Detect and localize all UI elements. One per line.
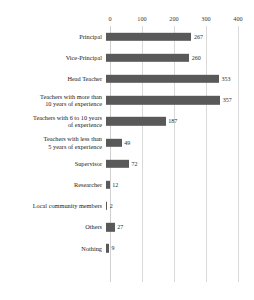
bar[interactable] [106, 223, 115, 231]
category-label: Teachers with less than 5 years of exper… [0, 135, 106, 150]
bar-row: Researcher12 [0, 174, 254, 195]
category-label: Vice-Principal [0, 54, 106, 62]
category-label: Nothing [0, 245, 106, 253]
bar-zone: 49 [106, 132, 254, 153]
category-label: Supervisor [0, 160, 106, 168]
bar-row: Principal267 [0, 26, 254, 47]
bar-value-label: 12 [110, 181, 119, 189]
bar-value-label: 72 [129, 160, 138, 168]
category-label: Local community members [0, 202, 106, 210]
bar[interactable] [106, 138, 122, 146]
bar-rows: Principal267Vice-Principal260Head Teache… [0, 26, 254, 259]
bar-row: Teachers with more than 10 years of expe… [0, 90, 254, 111]
bar-zone: 2 [106, 196, 254, 217]
bar-row: Head Teacher353 [0, 68, 254, 89]
x-tick-label-0: 0 [108, 14, 111, 23]
bar-row: Nothing9 [0, 238, 254, 259]
x-tick-label-300: 300 [201, 14, 210, 23]
bar[interactable] [106, 160, 129, 168]
bar-value-label: 187 [166, 117, 178, 125]
bar-value-label: 260 [189, 54, 201, 62]
bar[interactable] [106, 96, 220, 104]
bar-value-label: 2 [107, 202, 113, 210]
category-label: Teachers with 6 to 10 years of experienc… [0, 114, 106, 129]
bar-zone: 187 [106, 111, 254, 132]
bar-value-label: 267 [191, 33, 203, 41]
bar-row: Local community members2 [0, 196, 254, 217]
bar[interactable] [106, 32, 191, 40]
category-label: Head Teacher [0, 75, 106, 83]
x-axis-tick-labels: 0100200300400 [0, 14, 254, 26]
bar-zone: 12 [106, 174, 254, 195]
bar[interactable] [106, 54, 189, 62]
bar-zone: 27 [106, 217, 254, 238]
bar-zone: 9 [106, 238, 254, 259]
bar-value-label: 353 [219, 75, 231, 83]
x-tick-label-200: 200 [169, 14, 178, 23]
bar-zone: 260 [106, 47, 254, 68]
bar-row: Others27 [0, 217, 254, 238]
bar-zone: 357 [106, 90, 254, 111]
bar-value-label: 357 [220, 96, 232, 104]
bar-value-label: 9 [109, 244, 115, 252]
bar-zone: 72 [106, 153, 254, 174]
bar[interactable] [106, 117, 166, 125]
bar-row: Vice-Principal260 [0, 47, 254, 68]
category-label: Others [0, 223, 106, 231]
category-label: Principal [0, 33, 106, 41]
bar[interactable] [106, 75, 219, 83]
category-label: Teachers with more than 10 years of expe… [0, 93, 106, 108]
x-tick-label-400: 400 [233, 14, 242, 23]
bar-value-label: 27 [115, 223, 124, 231]
x-tick-label-100: 100 [137, 14, 146, 23]
bar-chart: 0100200300400 Principal267Vice-Principal… [0, 0, 254, 300]
bar-zone: 353 [106, 68, 254, 89]
bar-zone: 267 [106, 26, 254, 47]
bar-value-label: 49 [122, 139, 131, 147]
bar-row: Teachers with less than 5 years of exper… [0, 132, 254, 153]
category-label: Researcher [0, 181, 106, 189]
bar-row: Supervisor72 [0, 153, 254, 174]
bar-row: Teachers with 6 to 10 years of experienc… [0, 111, 254, 132]
plot-area: 0100200300400 Principal267Vice-Principal… [0, 0, 254, 285]
